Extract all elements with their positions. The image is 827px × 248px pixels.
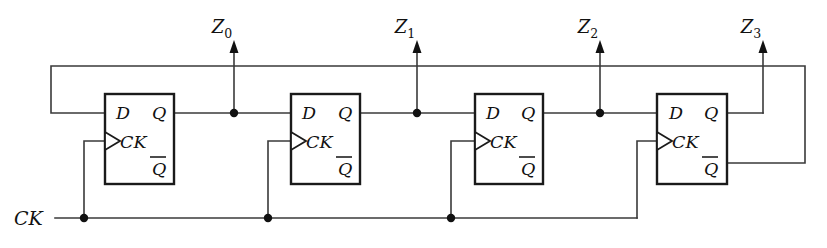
flipflop-1-d-label: D: [115, 103, 130, 123]
flipflop-2-d-label: D: [301, 103, 316, 123]
junction-dot-clock-ff2: [264, 214, 272, 222]
arrow-head-z0: [230, 40, 239, 53]
flipflop-4-q-label: Q: [704, 103, 718, 123]
flipflop-4-ck-label: CK: [672, 132, 699, 152]
flipflop-3-ck-label: CK: [490, 132, 517, 152]
flipflop-1-qbar-label: Q: [152, 159, 166, 179]
output-label-z0: Z0: [211, 16, 233, 41]
flipflop-1-ck-label: CK: [120, 132, 147, 152]
arrow-head-z2: [596, 40, 605, 53]
junction-dot-z1: [413, 109, 421, 117]
output-label-z1: Z1: [394, 16, 415, 41]
circuit-diagram: Z0 Z1 Z2 Z3 CK D CK Q Q D CK Q Q D CK Q …: [0, 0, 827, 248]
arrow-head-z1: [413, 40, 422, 53]
circuit-schematic-canvas: Z0 Z1 Z2 Z3 CK D CK Q Q D CK Q Q D CK Q …: [0, 0, 827, 248]
junction-dot-z2: [596, 109, 604, 117]
junction-dot-clock-ff3: [447, 214, 455, 222]
flipflop-1-q-label: Q: [152, 103, 166, 123]
junction-dot-clock-ff1: [80, 214, 88, 222]
clock-input-label: CK: [14, 207, 45, 229]
flipflop-3-d-label: D: [485, 103, 500, 123]
flipflop-3-q-label: Q: [521, 103, 535, 123]
clock-riser-ff4: [637, 141, 657, 218]
flipflop-2-q-label: Q: [338, 103, 352, 123]
arrow-head-z3: [759, 40, 768, 53]
flipflop-3-qbar-label: Q: [521, 159, 535, 179]
flipflop-4-d-label: D: [668, 103, 683, 123]
clock-riser-ff2: [268, 141, 291, 218]
flipflop-2-ck-label: CK: [306, 132, 333, 152]
output-label-z3: Z3: [740, 16, 762, 41]
junction-dot-z0: [230, 109, 238, 117]
output-label-z2: Z2: [577, 16, 598, 41]
flipflop-4-qbar-label: Q: [704, 159, 718, 179]
clock-riser-ff1: [84, 141, 105, 218]
clock-riser-ff3: [451, 141, 475, 218]
flipflop-2-qbar-label: Q: [338, 159, 352, 179]
